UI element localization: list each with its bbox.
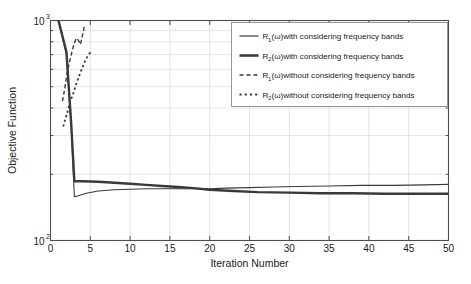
- y-tick-label: 10: [33, 236, 45, 247]
- chart-legend[interactable]: R1(ω)with considering frequency bandsR2(…: [232, 23, 448, 107]
- y-tick-exponent: 2: [46, 233, 50, 240]
- x-tick-label: 20: [204, 243, 216, 254]
- x-tick-label: 35: [324, 243, 336, 254]
- x-tick-label: 5: [88, 243, 94, 254]
- legend-label-text: (ω)with considering frequency bands: [272, 32, 404, 41]
- x-tick-label: 15: [164, 243, 176, 254]
- x-tick-label: 40: [363, 243, 375, 254]
- y-tick-label: 10: [33, 16, 45, 27]
- x-tick-label: 45: [403, 243, 415, 254]
- x-tick-label: 30: [284, 243, 296, 254]
- y-tick-exponent: 3: [46, 13, 50, 20]
- x-axis-title: Iteration Number: [210, 257, 289, 269]
- legend-label-text: (ω)with considering frequency bands: [272, 52, 404, 61]
- x-tick-label: 10: [125, 243, 137, 254]
- legend-label-text: (ω)without considering frequency bands: [272, 71, 415, 80]
- objective-function-convergence-chart: 05101520253035404550 103102 Iteration Nu…: [0, 0, 471, 284]
- y-axis-title: Objective Function: [6, 87, 18, 174]
- legend-label-text: (ω)without considering frequency bands: [272, 91, 415, 100]
- x-tick-label: 0: [48, 243, 54, 254]
- x-tick-label: 25: [244, 243, 256, 254]
- x-tick-label: 50: [443, 243, 455, 254]
- chart-figure: 05101520253035404550 103102 Iteration Nu…: [0, 0, 471, 284]
